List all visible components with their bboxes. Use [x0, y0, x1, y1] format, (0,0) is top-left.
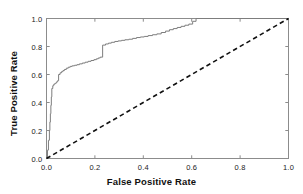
y-tick-label: 0.2	[21, 126, 43, 135]
y-tick-label: 0.6	[21, 70, 43, 79]
y-axis-title: True Positive Rate	[8, 34, 19, 154]
x-tick-label: 0.0	[41, 163, 52, 172]
y-tick-label: 0.8	[21, 42, 43, 51]
x-tick-label: 0.2	[89, 163, 100, 172]
x-axis-title: False Positive Rate	[0, 176, 303, 187]
x-tick-label: 0.4	[138, 163, 149, 172]
x-tick-label: 1.0	[283, 163, 294, 172]
y-tick-label: 0.4	[21, 98, 43, 107]
y-tick-label: 0.0	[21, 154, 43, 163]
chance-diagonal-line	[47, 19, 289, 159]
x-tick-label: 0.6	[186, 163, 197, 172]
x-tick-label: 0.8	[235, 163, 246, 172]
y-tick-label: 1.0	[21, 14, 43, 23]
roc-curve-figure: False Positive Rate True Positive Rate 0…	[0, 0, 303, 194]
